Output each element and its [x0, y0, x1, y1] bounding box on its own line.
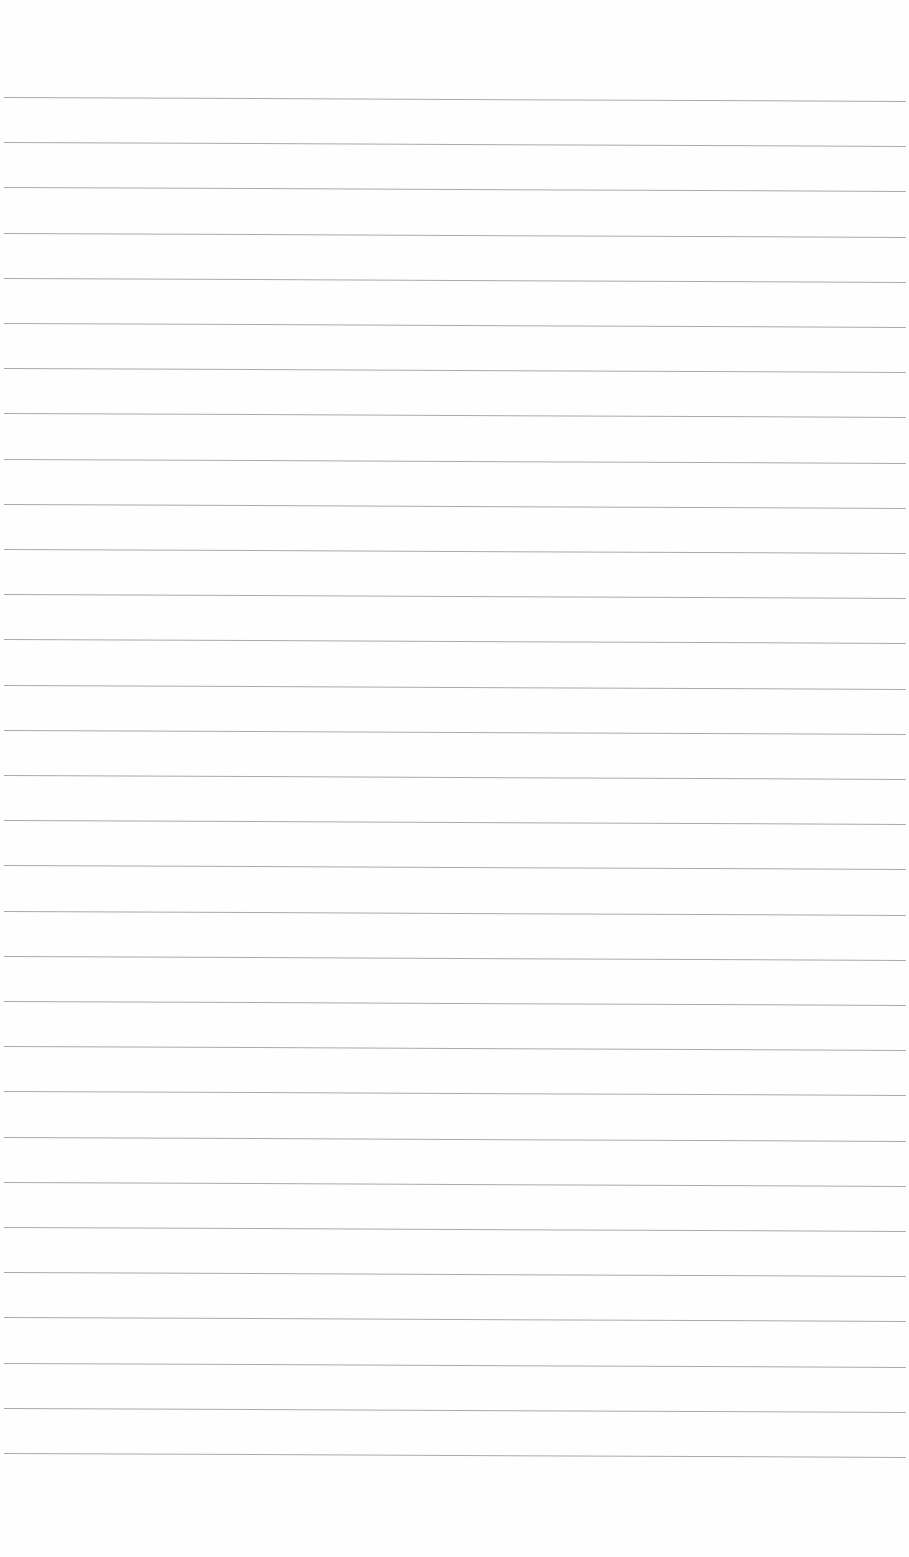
- lined-paper-page: [0, 0, 909, 1557]
- ruled-line: [4, 459, 906, 464]
- ruled-line: [4, 504, 906, 509]
- ruled-line: [4, 1272, 906, 1277]
- ruled-line: [4, 639, 906, 644]
- ruled-line: [4, 368, 906, 373]
- ruled-line: [4, 1001, 906, 1006]
- ruled-line: [4, 775, 906, 780]
- ruled-line: [4, 278, 906, 283]
- ruled-line: [4, 233, 906, 238]
- ruled-line: [4, 1137, 906, 1142]
- ruled-line: [4, 142, 906, 147]
- ruled-line: [4, 549, 906, 554]
- ruled-line: [4, 1182, 906, 1187]
- ruled-line: [4, 1227, 906, 1232]
- ruled-line: [4, 187, 906, 192]
- ruled-line: [4, 1408, 906, 1413]
- ruled-line: [4, 1091, 906, 1096]
- ruled-line: [4, 911, 906, 916]
- ruled-line: [4, 413, 906, 418]
- ruled-line: [4, 323, 906, 328]
- ruled-line: [4, 97, 906, 102]
- ruled-line: [4, 1363, 906, 1368]
- ruled-line: [4, 956, 906, 961]
- ruled-line: [4, 685, 906, 690]
- ruled-line: [4, 1453, 906, 1458]
- ruled-line: [4, 865, 906, 870]
- ruled-line: [4, 730, 906, 735]
- ruled-line: [4, 1046, 906, 1051]
- ruled-line: [4, 1317, 906, 1322]
- ruled-line: [4, 820, 906, 825]
- ruled-line: [4, 594, 906, 599]
